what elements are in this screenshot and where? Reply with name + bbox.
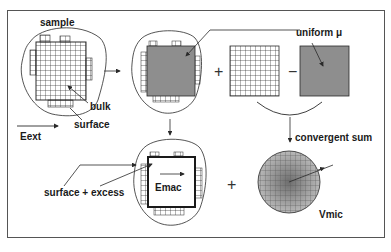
sample-label: sample <box>40 17 75 28</box>
minus-operator-top: − <box>288 63 297 80</box>
plus-operator-bottom: + <box>227 176 236 193</box>
uniform-mu-panel: uniform μ <box>296 27 349 96</box>
plus-operator-top: + <box>214 63 223 80</box>
sample-panel: sample bulk surface Eext <box>17 17 111 142</box>
bulk-label: bulk <box>90 101 111 112</box>
surface-label: surface <box>74 119 110 130</box>
eext-label: Eext <box>20 131 42 142</box>
uniform-mu-label: uniform μ <box>296 27 342 38</box>
lattice-grid <box>230 46 279 96</box>
emac-panel: Emac surface + excess <box>44 139 206 225</box>
diagram-canvas: sample bulk surface Eext + − <box>0 0 391 252</box>
surface-excess-label: surface + excess <box>44 187 125 198</box>
uniform-block <box>300 46 349 96</box>
vmic-panel: Vmic <box>258 151 343 220</box>
convergent-sum-bracket <box>257 102 322 115</box>
emac-label: Emac <box>155 182 182 193</box>
convergent-sum-label: convergent sum <box>295 132 372 143</box>
vmic-label: Vmic <box>319 209 343 220</box>
bulk-grid <box>36 42 86 100</box>
